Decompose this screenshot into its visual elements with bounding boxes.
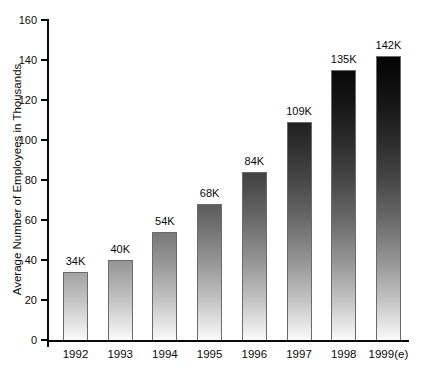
x-category-label: 1996 — [242, 348, 268, 361]
bar — [152, 232, 177, 340]
bar — [331, 70, 356, 340]
y-tick-mark — [41, 59, 47, 61]
bar — [63, 272, 88, 340]
x-category-label: 1992 — [63, 348, 89, 361]
y-tick-label: 160 — [3, 15, 37, 26]
y-tick-label: 80 — [3, 175, 37, 186]
bar — [242, 172, 267, 340]
x-category-label: 1997 — [286, 348, 312, 361]
plot-area: 02040608010012014016034K199240K199354K19… — [49, 20, 409, 340]
y-tick-mark — [41, 179, 47, 181]
bar — [197, 204, 222, 340]
bar-chart: Average Number of Employees in Thousands… — [0, 0, 421, 376]
x-category-label: 1993 — [107, 348, 133, 361]
bar-value-label: 142K — [376, 39, 402, 51]
bar — [376, 56, 401, 340]
y-tick-mark — [41, 339, 47, 341]
y-tick-mark — [41, 99, 47, 101]
y-tick-label: 120 — [3, 95, 37, 106]
y-tick-label: 40 — [3, 255, 37, 266]
x-category-label: 1995 — [197, 348, 223, 361]
y-tick-label: 140 — [3, 55, 37, 66]
y-tick-mark — [41, 219, 47, 221]
y-tick-label: 20 — [3, 295, 37, 306]
bar-value-label: 40K — [110, 243, 130, 255]
y-tick-label: 0 — [3, 335, 37, 346]
bar-value-label: 135K — [331, 53, 357, 65]
x-axis-line — [47, 340, 409, 342]
x-category-label: 1998 — [331, 348, 357, 361]
y-tick-mark — [41, 139, 47, 141]
x-category-label: 1994 — [152, 348, 178, 361]
y-axis-line — [47, 19, 49, 347]
y-tick-mark — [41, 299, 47, 301]
bar — [287, 122, 312, 340]
y-tick-mark — [41, 259, 47, 261]
bar-value-label: 109K — [286, 105, 312, 117]
bar-value-label: 54K — [155, 215, 175, 227]
y-tick-mark — [41, 19, 47, 21]
bar-value-label: 68K — [200, 187, 220, 199]
bar-value-label: 34K — [66, 255, 86, 267]
bar — [108, 260, 133, 340]
y-tick-label: 100 — [3, 135, 37, 146]
y-tick-label: 60 — [3, 215, 37, 226]
x-category-label: 1999(e) — [369, 348, 409, 361]
bar-value-label: 84K — [245, 155, 265, 167]
